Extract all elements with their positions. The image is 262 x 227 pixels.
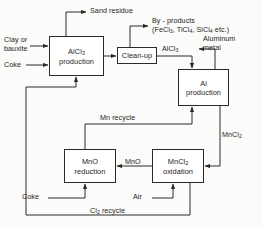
arrow-coke-bottom (48, 184, 85, 198)
label-air: Air (133, 193, 142, 202)
label-byproducts: By - products (FeCl3, TiCl4, SiCl4 etc.) (152, 17, 229, 34)
box-al-production (179, 70, 229, 106)
label-mn-recycle: Mn recycle (100, 114, 135, 123)
label-cl2-recycle: Cl2 recycle (90, 207, 125, 216)
label-mno-stream: MnO (125, 158, 141, 167)
process-flow-diagram: AlCl3 production Clean-up Al production … (0, 0, 262, 227)
arrow-cl2-recycle (26, 77, 190, 215)
box-cleanup (118, 48, 157, 64)
label-clay-or-bauxite: Clay or bauxite (4, 36, 28, 53)
label-aluminium-metal: Aluminum metal (203, 35, 235, 52)
arrow-air (152, 184, 173, 198)
box-alcl3-production (50, 37, 104, 76)
label-alcl3-stream: AlCl3 (162, 45, 178, 54)
label-sand-residue: Sand residue (90, 7, 133, 16)
label-coke-bottom: Coke (22, 193, 39, 202)
arrow-sand-residue (66, 12, 86, 36)
label-mncl2-stream: MnCl2 (222, 131, 242, 140)
arrow-mncl2-to-oxidation (205, 105, 220, 166)
label-coke-top: Coke (4, 61, 21, 70)
arrow-alcl3-to-al-production (156, 56, 192, 68)
box-mno-reduction (65, 150, 116, 183)
box-mncl2-oxidation (153, 150, 204, 183)
arrow-byproducts (130, 26, 148, 47)
